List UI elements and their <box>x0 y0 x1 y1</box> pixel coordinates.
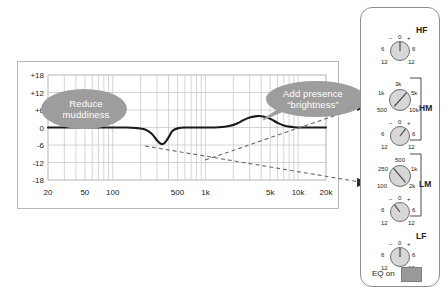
hm-gain-scale-label: 6 <box>412 131 415 137</box>
hf-gain-scale-label: 0 <box>398 34 401 40</box>
svg-text:10k: 10k <box>292 188 306 197</box>
svg-text:-12: -12 <box>32 159 44 168</box>
hm-gain-scale-label: − <box>389 120 393 126</box>
lm-gain-scale-label: 0 <box>398 195 401 201</box>
eq-section-lm: LM 5002501k1002k −0+661212 <box>361 146 441 224</box>
svg-text:-6: -6 <box>37 141 45 150</box>
lf-gain-scale-label: − <box>389 241 393 247</box>
lm-gain-scale-label: + <box>407 196 411 202</box>
eq-on-label: EQ on <box>372 269 395 278</box>
eq-module-panel: HF −0+661212 HM 3k1k5k50010k −0+661212 L… <box>360 7 440 287</box>
lf-gain-scale-label: 6 <box>381 252 384 258</box>
lm-freq-scale-label: 1k <box>411 166 417 172</box>
svg-text:+6: +6 <box>35 106 45 115</box>
eq-on-row: EQ on <box>372 267 432 282</box>
eq-response-chart: +18+12+60-6-12-1820501005001k5k10k20k <box>17 61 339 209</box>
svg-text:5k: 5k <box>266 188 275 197</box>
hf-gain-scale-label: 6 <box>412 46 415 52</box>
eq-section-lf: LF −0+661212 <box>361 222 441 268</box>
svg-text:0: 0 <box>40 124 45 133</box>
hf-gain-scale-label: − <box>389 35 393 41</box>
hm-gain-scale-label: 0 <box>398 119 401 125</box>
hm-freq-scale-label: 1k <box>378 90 384 96</box>
hm-freq-scale-label: 5k <box>411 90 417 96</box>
lm-freq-scale-label: 250 <box>378 166 388 172</box>
lf-gain-scale-label: + <box>407 241 411 247</box>
svg-text:+18: +18 <box>30 71 44 80</box>
hm-gain-scale-label: 6 <box>381 131 384 137</box>
hf-gain-scale-label: 6 <box>381 46 384 52</box>
lf-gain-scale-label: 6 <box>412 252 415 258</box>
svg-text:+12: +12 <box>30 89 44 98</box>
lm-freq-scale-label: 500 <box>395 157 405 163</box>
hf-gain-scale-label: 12 <box>408 59 415 65</box>
eq-section-hm: HM 3k1k5k50010k −0+661212 <box>361 70 441 148</box>
svg-text:20: 20 <box>44 188 53 197</box>
eq-response-plot: +18+12+60-6-12-1820501005001k5k10k20k <box>18 62 338 208</box>
lm-gain-scale-label: 6 <box>381 207 384 213</box>
eq-curve <box>48 116 326 144</box>
knob-hf-gain[interactable]: −0+661212 <box>377 25 423 67</box>
svg-text:50: 50 <box>80 188 89 197</box>
svg-text:100: 100 <box>106 188 120 197</box>
eq-illustration: +18+12+60-6-12-1820501005001k5k10k20k Re… <box>0 0 448 294</box>
hf-gain-scale-label: + <box>407 35 411 41</box>
hm-gain-scale-label: + <box>407 120 411 126</box>
hf-gain-scale-label: 12 <box>381 59 388 65</box>
svg-text:500: 500 <box>171 188 185 197</box>
lm-gain-scale-label: − <box>389 196 393 202</box>
hm-freq-scale-label: 3k <box>395 81 401 87</box>
eq-section-hf: HF −0+661212 <box>361 16 441 68</box>
svg-text:1k: 1k <box>201 188 210 197</box>
eq-on-button[interactable] <box>401 267 422 282</box>
lm-gain-scale-label: 6 <box>412 207 415 213</box>
lf-gain-scale-label: 0 <box>398 240 401 246</box>
svg-text:-18: -18 <box>32 176 44 185</box>
svg-text:20k: 20k <box>320 188 334 197</box>
